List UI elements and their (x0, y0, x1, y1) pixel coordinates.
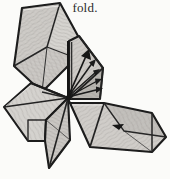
origami-fold-diagram (0, 0, 170, 179)
figure-page: fold. (0, 0, 170, 179)
